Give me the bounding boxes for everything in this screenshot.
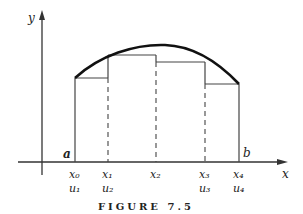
partition-dashed-lines xyxy=(108,62,205,162)
tick-u4: u₄ xyxy=(233,182,245,195)
tick-labels: x₀ u₁ x₁ u₂ x₂ x₃ u₃ x₄ u₄ xyxy=(69,168,245,195)
tick-u2: u₂ xyxy=(102,182,114,195)
x-axis-arrow-icon xyxy=(277,159,288,165)
step-rectangles xyxy=(75,55,239,162)
tick-x3: x₃ xyxy=(199,168,210,181)
y-axis-arrow-icon xyxy=(39,10,45,20)
tick-x4: x₄ xyxy=(233,168,244,181)
tick-u3: u₃ xyxy=(199,182,211,195)
tick-u1: u₁ xyxy=(69,182,81,195)
tick-x2: x₂ xyxy=(150,168,161,181)
label-a: a xyxy=(63,147,71,161)
x-axis-label: x xyxy=(282,167,289,181)
tick-x0: x₀ xyxy=(69,168,80,181)
label-b: b xyxy=(243,146,251,160)
tick-x1: x₁ xyxy=(102,168,113,181)
y-axis-label: y xyxy=(27,11,35,25)
figure-caption: FIGURE 7.5 xyxy=(98,201,194,212)
figure-diagram: y x a b x₀ u₁ x₁ u₂ x₂ x₃ u₃ x₄ u₄ FIGUR… xyxy=(0,0,303,214)
